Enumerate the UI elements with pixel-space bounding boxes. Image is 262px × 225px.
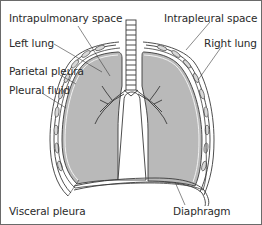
diaphragm-shape	[74, 178, 209, 206]
label-right-lung: Right lung	[204, 37, 257, 49]
label-left-lung: Left lung	[9, 37, 54, 49]
right-lung	[142, 52, 202, 186]
label-visceral-pleura: Visceral pleura	[9, 205, 86, 217]
label-intrapulmonary-space: Intrapulmonary space	[9, 12, 122, 24]
trachea	[124, 20, 138, 96]
label-intrapleural-space: Intrapleural space	[164, 12, 257, 24]
label-pleural-fluid: Pleural fluid	[9, 84, 70, 96]
mediastinum	[118, 92, 146, 180]
label-diaphragm: Diaphragm	[173, 205, 231, 217]
label-parietal-pleura: Parietal pleura	[9, 65, 84, 77]
lung-diagram	[0, 0, 262, 225]
